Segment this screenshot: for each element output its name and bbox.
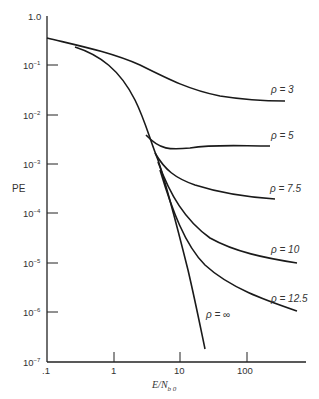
pe-vs-snr-chart: 1.0 10−1 10−2 10−3 10−4 10−5 10−6 10−7 P… — [0, 0, 319, 399]
svg-text:10−7: 10−7 — [23, 357, 41, 368]
y-tick-label: 1.0 — [28, 11, 41, 22]
x-tick-label: 100 — [237, 365, 253, 376]
svg-text:E/Nb 0: E/Nb 0 — [151, 379, 177, 393]
x-tick-label: .1 — [42, 365, 50, 376]
y-tick-label: 10−4 — [23, 208, 41, 219]
svg-text:10−1: 10−1 — [23, 60, 41, 71]
y-tick-label: 10−5 — [23, 258, 41, 269]
label-rho-5: ρ = 5 — [270, 130, 294, 141]
y-tick-label: 10−7 — [23, 357, 41, 368]
svg-text:10−2: 10−2 — [23, 110, 41, 121]
y-axis-title: PE — [12, 183, 26, 194]
label-rho-12-5: ρ = 12.5 — [270, 293, 308, 304]
svg-text:10−4: 10−4 — [23, 208, 41, 219]
curve-rho-7-5 — [155, 153, 275, 199]
y-tick-label: 10−3 — [23, 159, 41, 170]
label-rho-inf: ρ = ∞ — [205, 309, 230, 320]
label-rho-10: ρ = 10 — [270, 244, 300, 255]
x-tick-label: 1 — [111, 365, 116, 376]
x-axis-title: E/Nb 0 — [151, 379, 177, 393]
svg-text:10−3: 10−3 — [23, 159, 41, 170]
curve-rho-inf — [75, 47, 205, 349]
x-ticks — [114, 352, 247, 362]
y-tick-label: 10−6 — [23, 307, 41, 318]
y-tick-label: 10−2 — [23, 110, 41, 121]
label-rho-3: ρ = 3 — [270, 84, 294, 95]
label-rho-7-5: ρ = 7.5 — [269, 183, 301, 194]
curve-rho-5 — [146, 135, 270, 149]
svg-text:10−6: 10−6 — [23, 307, 41, 318]
y-ticks — [47, 65, 58, 312]
x-tick-label: 10 — [174, 365, 185, 376]
y-tick-label: 10−1 — [23, 60, 41, 71]
curve-rho-3 — [47, 38, 285, 101]
svg-text:10−5: 10−5 — [23, 258, 41, 269]
